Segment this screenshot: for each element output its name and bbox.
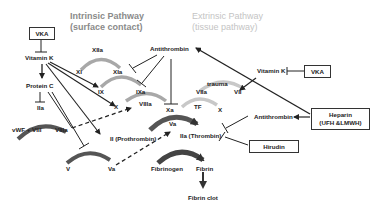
va-bottom: Va bbox=[108, 166, 115, 172]
vka-left-label: VKA bbox=[35, 30, 48, 38]
xiia: XIIa bbox=[92, 47, 103, 53]
extrinsic-title-line2: (tissue pathway) bbox=[192, 22, 263, 33]
arc-ix-ixa bbox=[101, 77, 141, 87]
viiia-left: VIIIa bbox=[55, 127, 68, 133]
xia: XIa bbox=[113, 69, 122, 75]
vka-box-left: VKA bbox=[29, 27, 55, 40]
fibrin: Fibrin bbox=[196, 166, 213, 172]
iia-small: IIa bbox=[37, 105, 44, 111]
vka-box-right: VKA bbox=[304, 65, 331, 78]
ii-prothrombin: II (Prothrombin) bbox=[110, 136, 156, 142]
antithrombin-right: Antithrombin bbox=[254, 114, 293, 120]
iia-thrombin: IIa (Thrombin) bbox=[180, 133, 221, 139]
vitamin-k-right: Vitamin K bbox=[257, 68, 285, 74]
ix: IX bbox=[98, 89, 104, 95]
va-mid: Va bbox=[169, 121, 176, 127]
trauma: trauma bbox=[207, 81, 228, 87]
vii: VII bbox=[234, 89, 242, 95]
protein-c: Protein C bbox=[26, 83, 54, 89]
x-left: X bbox=[114, 104, 118, 110]
extrinsic-pathway-title: Extrinsic Pathway (tissue pathway) bbox=[192, 11, 263, 33]
viia: VIIa bbox=[196, 89, 207, 95]
arc-fibrinogen-fibrin bbox=[158, 152, 203, 163]
intrinsic-title-line2: (surface contact) bbox=[70, 22, 144, 33]
ixa: IXa bbox=[136, 89, 145, 95]
vitamin-k-left: Vitamin K bbox=[25, 55, 53, 61]
xa: Xa bbox=[166, 107, 174, 113]
hirudin-box: Hirudin bbox=[249, 140, 299, 153]
vwf-viii: vWF + VIII bbox=[12, 127, 41, 133]
heparin-box: Heparin (UFH &LMWH) bbox=[311, 108, 370, 130]
antithrombin-top: Antithrombin bbox=[150, 46, 189, 52]
heparin-label: Heparin bbox=[329, 111, 352, 119]
vka-right-label: VKA bbox=[311, 68, 324, 76]
fibrin-clot: Fibrin clot bbox=[188, 195, 218, 201]
heparin-type-label: (UFH &LMWH) bbox=[319, 119, 361, 127]
x-right: X bbox=[218, 107, 222, 113]
intrinsic-pathway-title: Intrinsic Pathway (surface contact) bbox=[70, 11, 144, 33]
viiia-mid: VIIIa bbox=[139, 101, 152, 107]
fibrinogen: Fibrinogen bbox=[151, 166, 183, 172]
intrinsic-title-line1: Intrinsic Pathway bbox=[70, 11, 144, 22]
tf: TF bbox=[194, 104, 202, 110]
xi: XI bbox=[76, 69, 82, 75]
hirudin-label: Hirudin bbox=[263, 143, 285, 151]
coagulation-cascade-diagram: Intrinsic Pathway (surface contact) Extr… bbox=[0, 0, 382, 218]
v: V bbox=[66, 166, 70, 172]
arc-v-va bbox=[67, 153, 110, 163]
extrinsic-title-line1: Extrinsic Pathway bbox=[192, 11, 263, 22]
